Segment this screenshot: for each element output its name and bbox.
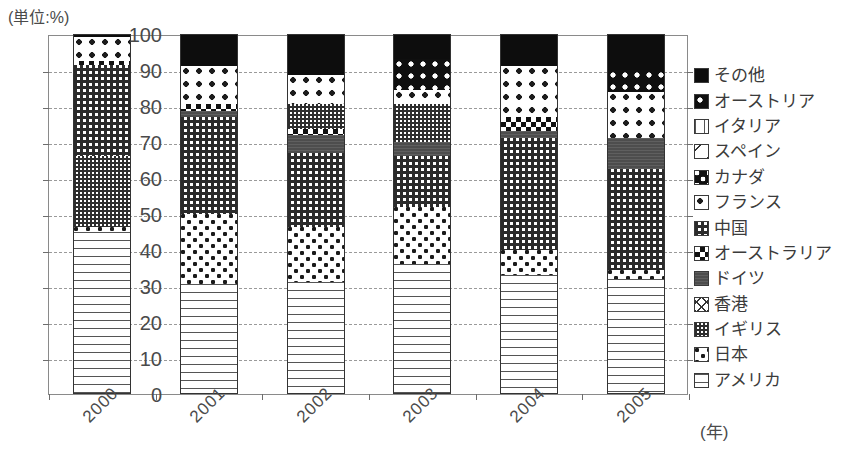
bar-segment-オーストラリア[interactable] bbox=[180, 104, 238, 111]
legend-swatch-icon bbox=[694, 94, 709, 109]
bar-segment-フランス[interactable] bbox=[500, 66, 558, 116]
legend-swatch-icon bbox=[694, 373, 709, 388]
bar-segment-アメリカ[interactable] bbox=[500, 275, 558, 394]
y-axis-tick bbox=[43, 108, 49, 109]
bar-segment-ドイツ[interactable] bbox=[500, 131, 558, 138]
legend-item-label: フランス bbox=[714, 194, 782, 211]
stacked-bar-2001[interactable] bbox=[180, 34, 238, 394]
y-axis-tick bbox=[687, 108, 693, 109]
y-axis-tick bbox=[43, 144, 49, 145]
y-axis-tick-label: 60 bbox=[102, 169, 162, 189]
y-axis-tick-label: 50 bbox=[102, 205, 162, 225]
legend-item-中国[interactable]: 中国 bbox=[694, 215, 852, 240]
legend-swatch-icon bbox=[694, 170, 709, 185]
stacked-bar-2005[interactable] bbox=[607, 34, 665, 394]
bar-segment-その他[interactable] bbox=[500, 34, 558, 66]
bar-segment-日本[interactable] bbox=[73, 227, 131, 232]
legend-item-label: ドイツ bbox=[714, 270, 765, 287]
x-axis-tick bbox=[49, 394, 50, 400]
legend-swatch-icon bbox=[694, 347, 709, 362]
bar-segment-オーストリア[interactable] bbox=[607, 70, 665, 92]
y-axis-tick bbox=[43, 252, 49, 253]
bar-segment-イギリス[interactable] bbox=[393, 104, 451, 142]
legend-item-label: イギリス bbox=[714, 321, 782, 338]
legend-item-label: イタリア bbox=[714, 118, 781, 135]
bar-segment-ドイツ[interactable] bbox=[393, 142, 451, 156]
y-axis-tick bbox=[43, 180, 49, 181]
bar-segment-その他[interactable] bbox=[393, 34, 451, 59]
legend-item-日本[interactable]: 日本 bbox=[694, 342, 852, 367]
bar-segment-日本[interactable] bbox=[287, 227, 345, 283]
legend-item-label: オーストラリア bbox=[714, 245, 832, 262]
y-axis-tick-label: 80 bbox=[102, 97, 162, 117]
bar-segment-アメリカ[interactable] bbox=[287, 282, 345, 394]
y-axis-tick bbox=[687, 180, 693, 181]
legend-item-イギリス[interactable]: イギリス bbox=[694, 317, 852, 342]
bar-segment-ドイツ[interactable] bbox=[287, 135, 345, 153]
stacked-bar-2004[interactable] bbox=[500, 34, 558, 394]
bar-segment-アメリカ[interactable] bbox=[393, 264, 451, 394]
bar-segment-中国[interactable] bbox=[500, 138, 558, 250]
legend-item-label: オーストリア bbox=[714, 93, 815, 110]
bar-segment-ドイツ[interactable] bbox=[180, 111, 238, 116]
y-axis-tick bbox=[43, 72, 49, 73]
legend-swatch-icon bbox=[694, 297, 709, 312]
legend-swatch-icon bbox=[694, 322, 709, 337]
bar-segment-日本[interactable] bbox=[393, 207, 451, 265]
legend-item-香港[interactable]: 香港 bbox=[694, 292, 852, 317]
legend-swatch-icon bbox=[694, 221, 709, 236]
legend-item-カナダ[interactable]: カナダ bbox=[694, 165, 852, 190]
bar-segment-フランス[interactable] bbox=[393, 90, 451, 104]
y-axis-tick-label: 10 bbox=[102, 349, 162, 369]
legend-swatch-icon bbox=[694, 195, 709, 210]
y-axis-tick bbox=[43, 216, 49, 217]
bar-segment-その他[interactable] bbox=[180, 34, 238, 66]
legend-item-その他[interactable]: その他 bbox=[694, 63, 852, 88]
legend-item-label: 香港 bbox=[714, 296, 748, 313]
y-axis-tick bbox=[687, 72, 693, 73]
bar-segment-中国[interactable] bbox=[287, 153, 345, 227]
legend-item-フランス[interactable]: フランス bbox=[694, 190, 852, 215]
bar-segment-その他[interactable] bbox=[287, 34, 345, 75]
bar-segment-オーストラリア[interactable] bbox=[500, 117, 558, 131]
legend-item-ドイツ[interactable]: ドイツ bbox=[694, 266, 852, 291]
bar-segment-フランス[interactable] bbox=[287, 75, 345, 104]
legend-item-スペイン[interactable]: スペイン bbox=[694, 139, 852, 164]
legend-item-オーストリア[interactable]: オーストリア bbox=[694, 88, 852, 113]
bar-segment-オーストラリア[interactable] bbox=[287, 129, 345, 134]
stacked-bar-2003[interactable] bbox=[393, 34, 451, 394]
bar-segment-オーストリア[interactable] bbox=[393, 59, 451, 90]
legend-item-label: 中国 bbox=[714, 220, 748, 237]
legend-swatch-icon bbox=[694, 246, 709, 261]
bar-segment-日本[interactable] bbox=[607, 270, 665, 279]
x-axis-tick bbox=[369, 394, 370, 400]
legend-swatch-icon bbox=[694, 144, 709, 159]
bar-segment-日本[interactable] bbox=[180, 214, 238, 284]
bar-segment-フランス[interactable] bbox=[180, 66, 238, 104]
bar-segment-ドイツ[interactable] bbox=[607, 138, 665, 169]
x-axis-tick bbox=[476, 394, 477, 400]
y-axis-tick bbox=[687, 288, 693, 289]
bar-segment-中国[interactable] bbox=[607, 169, 665, 270]
legend-swatch-icon bbox=[694, 119, 709, 134]
legend-swatch-icon bbox=[694, 68, 709, 83]
y-axis-tick bbox=[687, 144, 693, 145]
bar-segment-その他[interactable] bbox=[607, 34, 665, 70]
y-axis-tick-label: 30 bbox=[102, 277, 162, 297]
legend-item-アメリカ[interactable]: アメリカ bbox=[694, 368, 852, 393]
bar-segment-イギリス[interactable] bbox=[287, 104, 345, 129]
x-axis-tick bbox=[582, 394, 583, 400]
legend-item-オーストラリア[interactable]: オーストラリア bbox=[694, 241, 852, 266]
bar-segment-中国[interactable] bbox=[393, 156, 451, 206]
stacked-bar-2002[interactable] bbox=[287, 34, 345, 394]
y-axis-tick bbox=[43, 324, 49, 325]
chart-root: (単位:%) 1009080706050403020100 2000200120… bbox=[0, 0, 856, 458]
bar-segment-アメリカ[interactable] bbox=[607, 279, 665, 394]
bar-segment-アメリカ[interactable] bbox=[180, 284, 238, 394]
bar-segment-中国[interactable] bbox=[180, 117, 238, 214]
legend-item-イタリア[interactable]: イタリア bbox=[694, 114, 852, 139]
y-axis-tick bbox=[687, 252, 693, 253]
bar-segment-フランス[interactable] bbox=[607, 92, 665, 139]
y-axis-tick bbox=[687, 216, 693, 217]
bar-segment-日本[interactable] bbox=[500, 250, 558, 275]
